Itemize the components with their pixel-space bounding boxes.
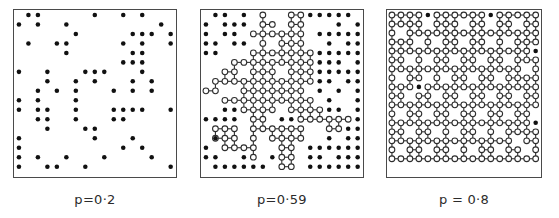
panel-wrap-3: p = 0·8 bbox=[386, 9, 542, 178]
percolation-panel-p02 bbox=[13, 9, 177, 178]
panel-caption-p059: p=0·59 bbox=[200, 192, 364, 207]
panel-caption-p08: p = 0·8 bbox=[386, 192, 542, 207]
percolation-figure: p=0·2 p=0·59 p = 0·8 bbox=[0, 0, 559, 218]
panel-wrap-2: p=0·59 bbox=[200, 9, 364, 178]
percolation-panel-p059 bbox=[200, 9, 364, 178]
percolation-panel-p08 bbox=[386, 9, 542, 178]
panel-wrap-1: p=0·2 bbox=[13, 9, 177, 178]
lattice-svg-p059 bbox=[201, 10, 363, 177]
lattice-svg-p08 bbox=[387, 10, 541, 177]
lattice-svg-p02 bbox=[14, 10, 176, 177]
panel-caption-p02: p=0·2 bbox=[13, 192, 177, 207]
